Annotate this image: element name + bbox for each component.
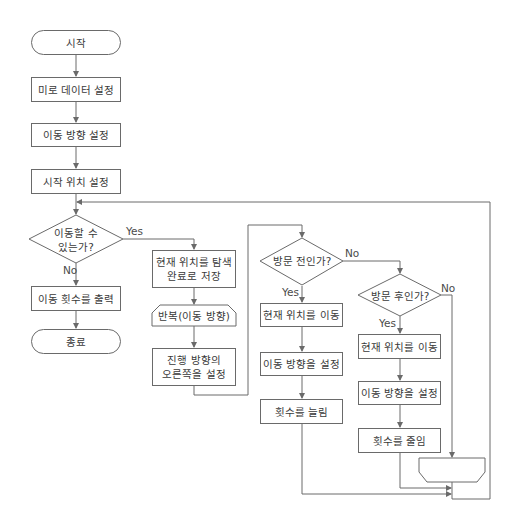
set-direction-process-a: 이동 방향을 설정: [260, 352, 343, 376]
save-visited-process: 현재 위치를 탐색 완료로 저장: [152, 250, 236, 288]
can-move-decision: 이동할 수 있는가?: [40, 225, 112, 255]
can-move-yes-label: Yes: [126, 225, 143, 237]
set-direction-label-a: 이동 방향을 설정: [263, 357, 340, 371]
decrease-count-label: 횟수를 줄임: [373, 434, 426, 448]
after-visit-no-label: No: [441, 282, 455, 294]
increase-count-process: 횟수를 늘림: [260, 399, 343, 424]
set-direction-process: 이동 방향 설정: [31, 123, 121, 147]
loop-end: [419, 458, 485, 482]
set-maze-data-process: 미로 데이터 설정: [31, 77, 121, 102]
end-terminator: 종료: [31, 329, 121, 354]
start-label: 시작: [66, 36, 86, 50]
can-move-no-label: No: [63, 264, 77, 276]
set-start-position-process: 시작 위치 설정: [31, 169, 121, 194]
set-start-position-label: 시작 위치 설정: [43, 175, 110, 189]
move-position-label-a: 현재 위치를 이동: [263, 308, 340, 322]
print-moves-label: 이동 횟수를 출력: [38, 292, 115, 306]
before-visit-label: 방문 전인가?: [273, 254, 332, 268]
set-direction-label-b: 이동 방향을 설정: [361, 386, 438, 400]
set-right-direction-label: 진행 방향의 오른쪽을 설정: [162, 353, 225, 381]
before-visit-yes-label: Yes: [282, 286, 299, 298]
loop-header-label: 반복(이동 방향): [158, 309, 230, 323]
print-moves-process: 이동 횟수를 출력: [31, 286, 121, 311]
move-position-process-a: 현재 위치를 이동: [260, 303, 343, 327]
start-terminator: 시작: [31, 30, 121, 55]
after-visit-label: 방문 후인가?: [371, 289, 430, 303]
can-move-label: 이동할 수 있는가?: [54, 226, 97, 254]
after-visit-decision: 방문 후인가?: [366, 287, 434, 305]
set-right-direction-process: 진행 방향의 오른쪽을 설정: [152, 348, 236, 386]
move-position-process-b: 현재 위치를 이동: [358, 334, 441, 359]
before-visit-no-label: No: [345, 247, 359, 259]
end-label: 종료: [66, 335, 86, 349]
flowchart-canvas: 시작 미로 데이터 설정 이동 방향 설정 시작 위치 설정 이동할 수 있는가…: [0, 0, 518, 523]
move-position-label-b: 현재 위치를 이동: [361, 340, 438, 354]
decrease-count-process: 횟수를 줄임: [358, 428, 441, 453]
loop-header: 반복(이동 방향): [152, 305, 236, 326]
increase-count-label: 횟수를 늘림: [275, 405, 328, 419]
set-direction-process-b: 이동 방향을 설정: [358, 381, 441, 405]
set-maze-label: 미로 데이터 설정: [38, 83, 115, 97]
after-visit-yes-label: Yes: [379, 317, 396, 329]
set-direction-label: 이동 방향 설정: [43, 128, 110, 142]
before-visit-decision: 방문 전인가?: [268, 252, 336, 270]
save-visited-label: 현재 위치를 탐색 완료로 저장: [156, 255, 233, 283]
